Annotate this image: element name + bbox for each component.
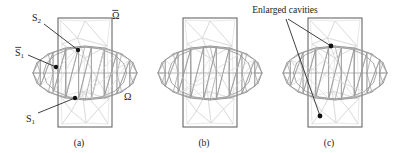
label-s1: S1 [26,113,36,126]
node-s1bar [54,65,58,69]
label-omega-bar: Ω [112,10,119,21]
mesh-back-triangle [210,20,235,46]
node-enlarged-cavity-top [329,44,334,49]
mesh-brace [91,49,104,99]
leader-s1 [38,98,75,113]
mesh-spoke [173,73,178,92]
panel-caption-b: (b) [198,138,209,149]
mesh-back-triangle [312,111,336,124]
label-s1-bar: S1 [15,47,25,60]
figure-root: S2S1S1ΩΩ(a)(b)(c) Enlarged cavities [0,0,402,153]
mesh-spoke [85,73,91,100]
node-s1 [73,96,77,100]
node-s2 [76,48,80,52]
panel-b: (b) [158,18,262,149]
mesh-back-triangle [60,20,77,44]
mesh-back-triangle [185,20,202,44]
mesh-figure-svg: S2S1S1ΩΩ(a)(b)(c) Enlarged cavities [0,0,402,153]
mesh-back-triangle [335,20,360,46]
mesh-back-triangle [310,20,327,44]
mesh-back-triangle [335,46,359,99]
annotations-layer: Enlarged cavities [252,5,318,15]
mesh-back-triangle [336,109,358,124]
mesh-back-triangle [61,97,72,124]
mesh-back-triangle [186,97,197,124]
mesh-zigzag-lower [341,49,354,99]
mesh-spoke [367,54,372,73]
mesh-back-triangle [85,20,110,46]
label-s2: S2 [32,12,42,25]
mesh-back-triangle [187,111,211,124]
mesh-back-triangle [211,109,233,124]
mesh-back-triangle [311,97,322,124]
mesh-back-triangle [86,109,108,124]
mesh-spoke [117,54,122,73]
mesh-back-triangle [62,111,86,124]
panel-caption-c: (c) [324,138,335,149]
node-enlarged-cavity-bottom [318,114,323,119]
panel-c: (c) [283,18,387,149]
panel-a: S2S1S1ΩΩ(a) [15,10,137,149]
mesh-back-triangle [210,46,234,99]
panel-caption-a: (a) [74,138,85,149]
enlarged-cavities-label: Enlarged cavities [252,5,318,15]
panels-layer: S2S1S1ΩΩ(a)(b)(c) [15,10,387,149]
leader-s2 [44,24,78,50]
mesh-spoke [298,73,303,92]
label-omega: Ω [124,91,131,102]
